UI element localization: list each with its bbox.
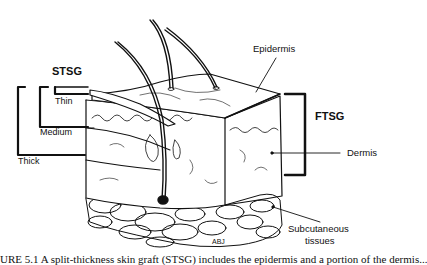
label-thin: Thin [55,97,73,106]
label-epidermis: Epidermis [253,44,295,54]
label-stsg: STSG [52,66,82,77]
label-medium: Medium [40,128,72,137]
label-ftsg: FTSG [315,111,344,122]
figure-caption: URE 5.1 A split-thickness skin graft (ST… [0,254,427,265]
label-dermis: Dermis [347,148,377,158]
dermis-block [86,96,282,209]
stsg-brackets [18,87,88,155]
label-subcutaneous: Subcutaneous [288,224,349,234]
label-thick: Thick [18,157,40,166]
artist-signature: ABJ [212,238,225,245]
ftsg-bracket [285,94,305,175]
label-tissues: tissues [305,236,335,246]
